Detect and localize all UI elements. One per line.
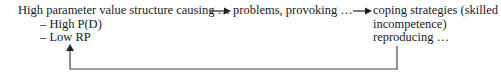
arrows-layer <box>0 0 501 75</box>
arrow-problems-to-coping <box>353 8 372 15</box>
arrow-structure-to-problems <box>210 8 231 15</box>
feedback-loop-arrow <box>66 44 397 69</box>
